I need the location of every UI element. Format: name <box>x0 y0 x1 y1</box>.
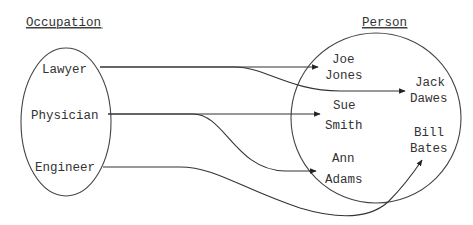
person-set-circle <box>291 33 461 203</box>
arrow-engineer-to-bill-bates <box>103 160 422 216</box>
occupation-physician: Physician <box>31 109 99 123</box>
arrow-physician-to-ann-adams <box>108 114 316 171</box>
occupation-engineer: Engineer <box>35 161 95 175</box>
person-sue-smith-last: Smith <box>325 119 363 133</box>
occupation-person-mapping-diagram: Occupation Person Lawyer Physician Engin… <box>0 0 473 225</box>
person-joe-jones-last: Jones <box>325 69 363 83</box>
person-bill-bates-first: Bill <box>414 126 444 140</box>
occupation-lawyer: Lawyer <box>42 63 87 77</box>
person-joe-jones-first: Joe <box>332 53 355 67</box>
person-jack-dawes-first: Jack <box>415 76 445 90</box>
person-ann-adams-first: Ann <box>332 152 355 166</box>
person-bill-bates-last: Bates <box>410 142 448 156</box>
person-jack-dawes-last: Dawes <box>410 92 448 106</box>
person-ann-adams-last: Adams <box>325 173 363 187</box>
person-sue-smith-first: Sue <box>333 99 356 113</box>
